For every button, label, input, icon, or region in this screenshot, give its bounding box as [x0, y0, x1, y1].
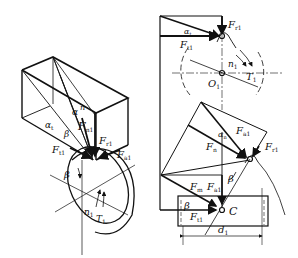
label-alpha-t: αt: [45, 120, 54, 131]
label-beta-mid: β: [227, 173, 234, 184]
label-C: C: [229, 205, 238, 218]
label-T1: T1: [96, 214, 106, 225]
right-top-view: [160, 16, 282, 110]
label-n1: n1: [84, 207, 94, 218]
right-top-labels: Fr1 αt Ft1 n1 T1 O1: [179, 19, 257, 90]
label-Fr-top: Fr1: [227, 19, 242, 31]
label-Ft: Ft1: [51, 144, 65, 156]
label-T1-top: T1: [246, 71, 257, 83]
label-Ft-top: Ft1: [179, 39, 193, 51]
label-Fa: Fa1: [116, 149, 131, 161]
label-O1: O1: [208, 78, 220, 90]
label-Fr: Fr1: [98, 135, 113, 147]
label-Fn: Fn1: [77, 120, 93, 133]
label-n: n: [80, 103, 85, 112]
label-Fn-bottom: Fn: [205, 141, 217, 153]
label-Fa-low: Fa1: [206, 181, 221, 193]
label-alpha-n: α: [72, 107, 78, 117]
label-Fn-low: Fm: [189, 181, 203, 193]
label-Fa-bottom: Fa1: [235, 125, 250, 137]
label-Ft-bottom: Ft1: [189, 211, 203, 223]
label-beta-gear: β: [63, 169, 70, 180]
label-beta-top: β: [63, 129, 69, 139]
label-Fr-bottom: Fr1: [264, 141, 279, 153]
helical-gear-force-diagram: α n αt β Fn1 Ft1 Fr1 Fa1 β n1 T1 Fr1 αt …: [0, 0, 298, 258]
label-alpha-t-top: αt: [184, 27, 191, 37]
label-n1-top: n1: [228, 59, 238, 70]
label-beta-low: β: [183, 200, 190, 211]
